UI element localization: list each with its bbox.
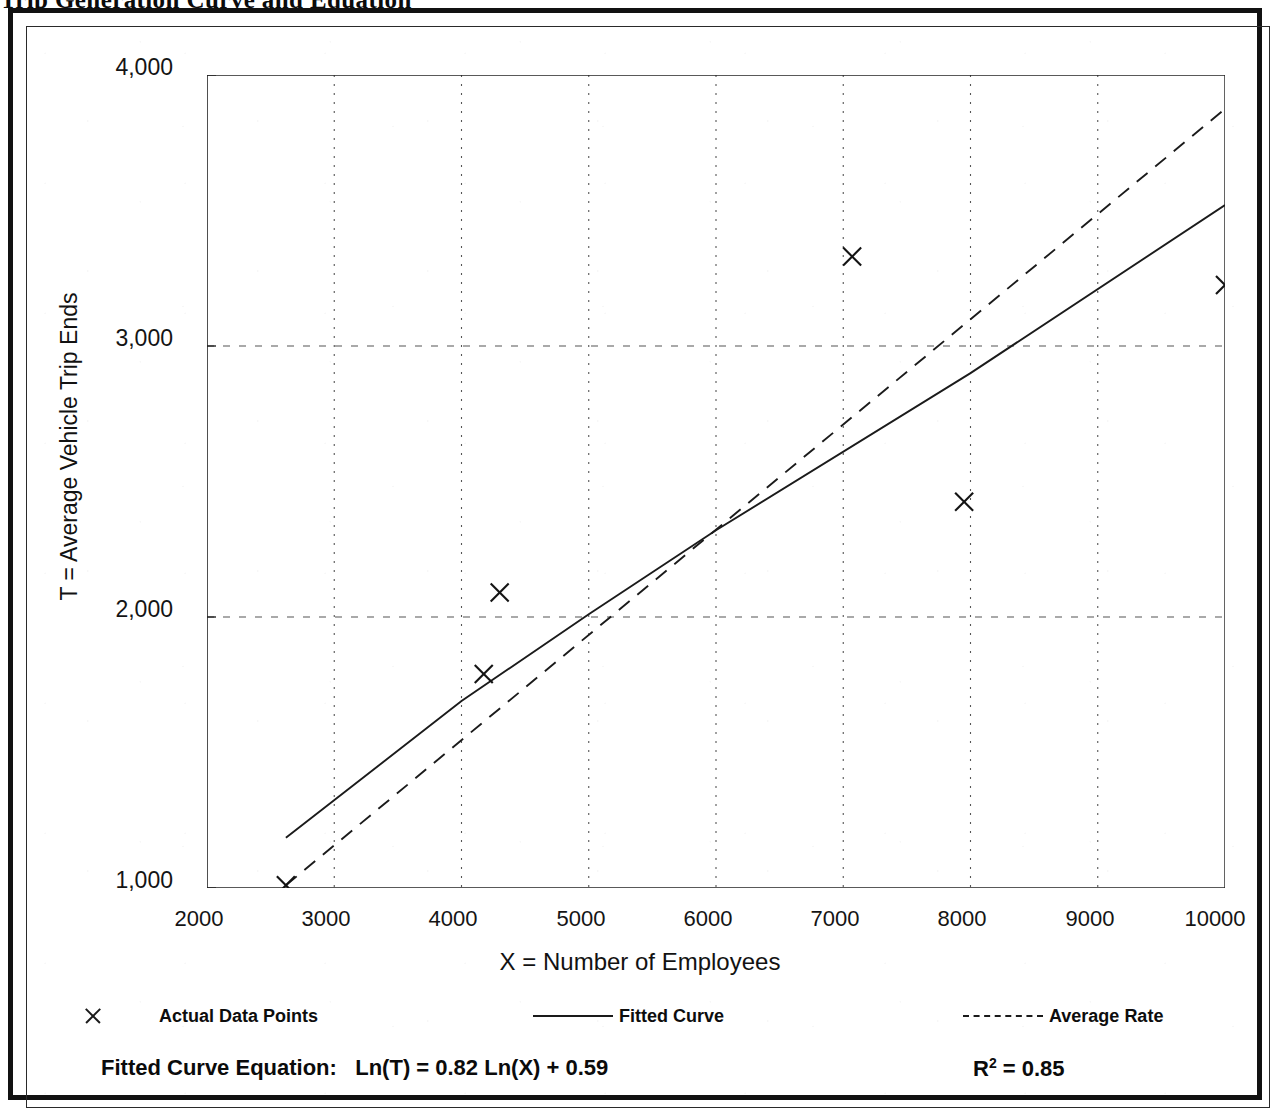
x-tick-label: 9000 <box>1030 906 1150 932</box>
r-squared-symbol: R <box>973 1056 989 1081</box>
legend-item-actual-data-points: Actual Data Points <box>73 1001 318 1031</box>
y-axis-title: T = Average Vehicle Trip Ends <box>56 167 83 727</box>
r-squared-annotation: R2 = 0.85 <box>973 1055 1065 1082</box>
series-actual-data-points <box>277 248 1225 888</box>
r-squared-value: = 0.85 <box>1003 1056 1065 1081</box>
x-tick-label: 8000 <box>902 906 1022 932</box>
x-tick-label: 3000 <box>266 906 386 932</box>
equation-label: Fitted Curve Equation: <box>101 1055 337 1080</box>
fitted-curve-equation: Fitted Curve Equation: Ln(T) = 0.82 Ln(X… <box>101 1055 608 1081</box>
plot-area <box>207 75 1225 888</box>
solid-line-icon <box>533 1003 615 1029</box>
y-tick-label: 1,000 <box>53 867 173 894</box>
legend-item-fitted-curve: Fitted Curve <box>533 1001 724 1031</box>
figure-frame: 4,000 3,000 2,000 1,000 2000 3000 4000 5… <box>8 8 1262 1100</box>
series-average-rate <box>286 109 1225 885</box>
x-axis-title: X = Number of Employees <box>13 948 1267 976</box>
dashed-line-icon <box>963 1003 1045 1029</box>
r-squared-exponent: 2 <box>989 1055 997 1071</box>
legend-label: Fitted Curve <box>615 1006 724 1027</box>
equation-expression: Ln(T) = 0.82 Ln(X) + 0.59 <box>355 1055 608 1080</box>
vertical-gridlines <box>334 75 1098 888</box>
x-tick-label: 4000 <box>393 906 513 932</box>
equation-row: Fitted Curve Equation: Ln(T) = 0.82 Ln(X… <box>73 1055 1233 1095</box>
y-tick-label: 4,000 <box>53 54 173 81</box>
x-tick-label: 6000 <box>648 906 768 932</box>
x-tick-label: 2000 <box>139 906 259 932</box>
legend-label: Actual Data Points <box>155 1006 318 1027</box>
x-marker-icon <box>73 1003 155 1029</box>
x-tick-label: 7000 <box>775 906 895 932</box>
series-fitted-curve <box>286 205 1225 838</box>
legend-item-average-rate: Average Rate <box>963 1001 1163 1031</box>
chart-canvas <box>207 75 1225 888</box>
legend-label: Average Rate <box>1045 1006 1163 1027</box>
x-tick-label: 5000 <box>521 906 641 932</box>
chart-legend: Actual Data Points Fitted Curve Average … <box>73 1001 1233 1035</box>
x-tick-label: 10000 <box>1155 906 1270 932</box>
